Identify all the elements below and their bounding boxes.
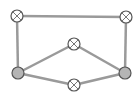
edge-top-left-bottom-left [17,16,18,73]
filled-node-icon [12,67,24,79]
node-top-left [11,10,23,22]
edges-group [17,16,126,85]
node-top-right [120,11,132,23]
filled-node-icon [119,67,131,79]
edge-bottom-middle-bottom-right [74,73,125,85]
edge-bottom-left-middle-top [18,44,74,73]
edge-top-left-top-right [17,16,126,17]
node-bottom-middle [68,79,80,91]
node-middle-top [68,38,80,50]
node-bottom-right [119,67,131,79]
edge-top-right-bottom-right [125,17,126,73]
nodes-group [11,10,132,91]
edge-middle-top-bottom-right [74,44,125,73]
edge-bottom-left-bottom-middle [18,73,74,85]
node-bottom-left [12,67,24,79]
graph-diagram [0,0,139,100]
